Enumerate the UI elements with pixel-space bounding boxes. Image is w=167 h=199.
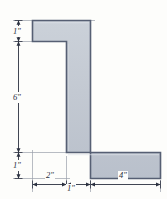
shape-highlights	[34, 23, 159, 155]
dimension-label-bottom-flange-thickness: 1"	[13, 160, 22, 171]
dimension-label-left-overhang: 2"	[45, 171, 55, 180]
figure-canvas	[0, 0, 167, 199]
dimension-label-top-flange-thickness: 1"	[13, 26, 22, 37]
beam-shape	[33, 21, 161, 179]
dimension-label-web-height: 6"	[13, 92, 22, 103]
beam-cross-section-figure: 1" 6" 1" 2" 1" 4"	[0, 0, 167, 199]
dimension-label-web-thickness: 1"	[66, 184, 76, 193]
dimension-label-right-flange: 4"	[118, 171, 128, 180]
